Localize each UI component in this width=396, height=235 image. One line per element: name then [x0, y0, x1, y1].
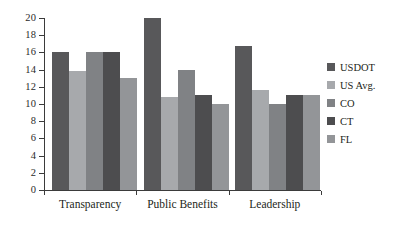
legend-item-label: CO [340, 98, 355, 109]
bar-group [138, 18, 230, 190]
y-axis-tick-label: 16 [2, 47, 36, 57]
legend-item-label: CT [340, 116, 353, 127]
bar [86, 52, 103, 190]
legend-swatch-icon [327, 63, 335, 71]
x-axis-tick [44, 191, 45, 195]
bar [161, 97, 178, 190]
y-axis-tick-label: 14 [2, 65, 36, 75]
bar [269, 104, 286, 190]
x-axis-line [44, 190, 321, 191]
y-axis-tick-label: 8 [2, 116, 36, 126]
bar [195, 95, 212, 190]
legend-item-label: USDOT [340, 62, 375, 73]
category-label: Public Benefits [136, 197, 228, 217]
legend-item[interactable]: US Avg. [327, 76, 395, 94]
legend-item-label: FL [340, 134, 352, 145]
bar [303, 95, 320, 190]
x-axis-tick [229, 191, 230, 195]
y-axis-tick-label: 2 [2, 168, 36, 178]
legend-item[interactable]: FL [327, 130, 395, 148]
x-axis-tick [136, 191, 137, 195]
bar-group [229, 18, 321, 190]
bar [178, 70, 195, 190]
legend-swatch-icon [327, 117, 335, 125]
y-axis-tick-label: 0 [2, 185, 36, 195]
category-labels: TransparencyPublic BenefitsLeadership [44, 197, 321, 217]
x-axis-tick [321, 191, 322, 195]
chart-legend: USDOTUS Avg.COCTFL [327, 58, 395, 148]
bar [52, 52, 69, 190]
legend-item[interactable]: USDOT [327, 58, 395, 76]
legend-item[interactable]: CT [327, 112, 395, 130]
bar [144, 18, 161, 190]
legend-swatch-icon [327, 99, 335, 107]
bar [235, 46, 252, 190]
legend-item[interactable]: CO [327, 94, 395, 112]
bar-group [44, 18, 138, 190]
category-label: Transparency [44, 197, 136, 217]
y-axis-tick-label: 4 [2, 151, 36, 161]
y-axis-tick-label: 20 [2, 13, 36, 23]
bar [252, 90, 269, 190]
y-axis-tick-label: 6 [2, 133, 36, 143]
bar [120, 78, 137, 190]
legend-swatch-icon [327, 81, 335, 89]
y-axis-tick-label: 12 [2, 82, 36, 92]
bar [103, 52, 120, 190]
y-axis-tick-label: 10 [2, 99, 36, 109]
bar-groups [44, 18, 321, 190]
legend-item-label: US Avg. [340, 80, 375, 91]
bar [212, 104, 229, 190]
legend-swatch-icon [327, 135, 335, 143]
bar [69, 71, 86, 190]
y-axis-tick-label: 18 [2, 30, 36, 40]
bar-chart: 20181614121086420 TransparencyPublic Ben… [0, 0, 396, 235]
category-label: Leadership [229, 197, 321, 217]
bar [286, 95, 303, 190]
